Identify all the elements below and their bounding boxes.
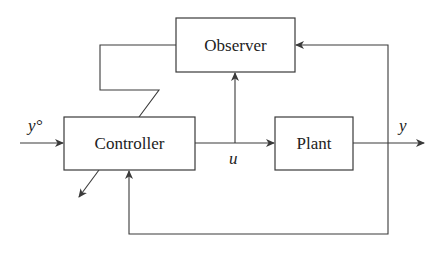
observer-label: Observer bbox=[204, 36, 267, 55]
control-signal-label: u bbox=[229, 149, 238, 168]
observer-block: Observer bbox=[176, 18, 295, 72]
controller-adaptation-arrow bbox=[79, 170, 99, 197]
output-signal-label: y bbox=[397, 116, 407, 135]
observer-to-controller-line bbox=[100, 45, 176, 117]
controller-label: Controller bbox=[95, 134, 165, 153]
plant-block: Plant bbox=[275, 117, 353, 170]
controller-block: Controller bbox=[64, 117, 195, 170]
block-diagram: Observer Controller Plant y° u y bbox=[0, 0, 445, 255]
plant-label: Plant bbox=[297, 134, 332, 153]
reference-signal-label: y° bbox=[26, 116, 43, 135]
